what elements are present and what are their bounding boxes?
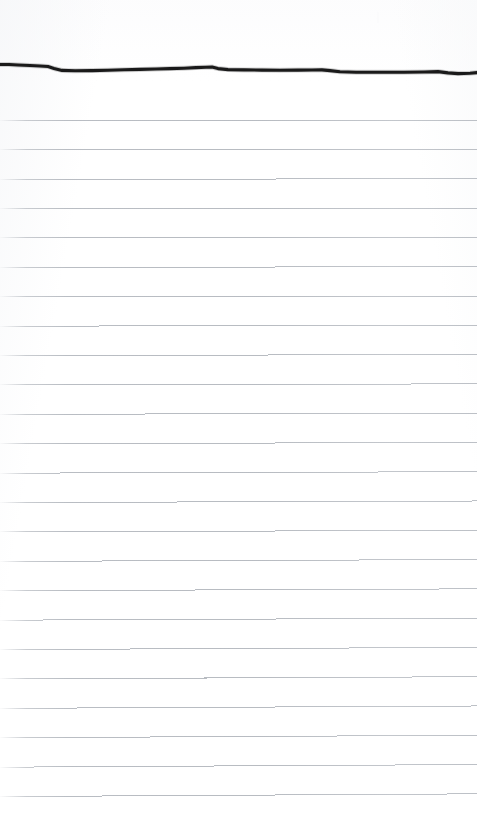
- ruled-line: [0, 530, 477, 532]
- ruled-line: [0, 560, 477, 562]
- ruled-line: [0, 706, 477, 708]
- ruled-line: [0, 647, 477, 649]
- ruled-line: [0, 618, 477, 620]
- ruled-line: [0, 765, 477, 768]
- ruled-line: [0, 355, 477, 356]
- ruled-line: [0, 442, 477, 443]
- ruled-line: [0, 589, 477, 591]
- ruled-line-group: [0, 91, 477, 797]
- ruled-line: [0, 413, 477, 414]
- ruled-line: [0, 325, 477, 326]
- ruled-line: [0, 677, 477, 679]
- ruled-line: [0, 267, 477, 268]
- ruled-line: [0, 472, 477, 474]
- ruled-line: [0, 501, 477, 503]
- ruled-lines-layer: [0, 0, 477, 814]
- ruled-line: [0, 735, 477, 738]
- ruled-line: [0, 296, 477, 297]
- ruled-line: [0, 237, 477, 238]
- ruled-line: [0, 384, 477, 385]
- scanned-page: [0, 0, 477, 814]
- ruled-line: [0, 794, 477, 797]
